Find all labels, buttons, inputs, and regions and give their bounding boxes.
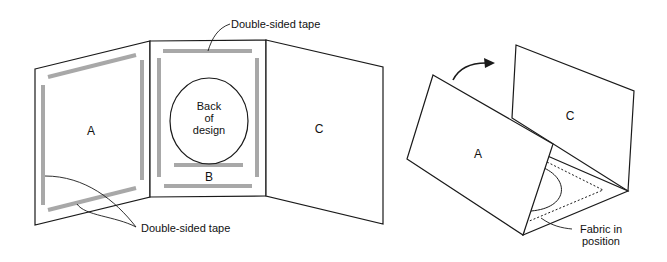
oval-text-line1: Back (197, 100, 222, 112)
panel-a-label: A (87, 124, 95, 138)
callout-top-label: Double-sided tape (231, 18, 320, 30)
folded-panel-c-label: C (566, 109, 575, 123)
folded-panel-a-label: A (474, 147, 482, 161)
panel-c-label: C (315, 122, 324, 136)
oval-text-line2: of (204, 112, 214, 124)
callout-bottom-label: Double-sided tape (141, 222, 230, 234)
folding-view: A C Fabric in position (407, 45, 634, 247)
panel-b-label: B (205, 170, 213, 184)
panel-c (266, 40, 383, 224)
fold-arrow (453, 63, 486, 80)
folding-diagram: Back of design A B C Double-sided tape D… (0, 0, 667, 262)
fabric-callout-line2: position (582, 235, 620, 247)
fabric-callout-line1: Fabric in (580, 223, 622, 235)
arrow-head-icon (484, 58, 495, 68)
unfolded-view: Back of design A B C Double-sided tape D… (35, 18, 383, 234)
oval-text-line3: design (193, 124, 225, 136)
